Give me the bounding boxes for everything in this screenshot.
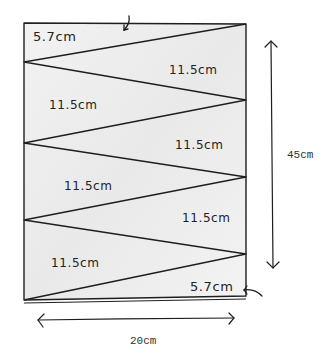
- height-dimension-label: 45cm: [287, 150, 313, 161]
- diagram-canvas: [0, 0, 331, 359]
- segment-label-strip-3: 11.5cm: [175, 139, 224, 151]
- width-dimension-label: 20cm: [130, 336, 156, 347]
- segment-label-top: 5.7cm: [33, 30, 77, 43]
- segment-label-strip-4: 11.5cm: [64, 180, 113, 192]
- segment-label-strip-2: 11.5cm: [49, 99, 98, 111]
- segment-label-bottom: 5.7cm: [190, 280, 234, 293]
- segment-label-strip-1: 11.5cm: [169, 64, 218, 76]
- segment-label-strip-5: 11.5cm: [182, 212, 231, 224]
- height-dimension-arrow-icon: [265, 41, 279, 268]
- segment-label-strip-6: 11.5cm: [51, 257, 100, 269]
- width-dimension-arrow-icon: [38, 313, 234, 327]
